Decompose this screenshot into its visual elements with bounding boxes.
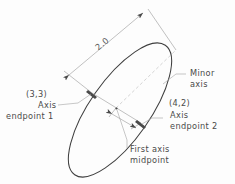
minor-axis-dashed-line	[116, 50, 176, 108]
midpoint-marker	[115, 107, 117, 109]
leader-minor-axis	[163, 74, 186, 84]
leader-endpoint-1	[58, 94, 91, 105]
dimension-value-group: 2.0	[93, 35, 111, 52]
dimension-2-0	[64, 9, 176, 93]
midpoint-to-endpoint2-dimension	[109, 108, 141, 129]
endpoint-1-coordinate-text: (3,3)	[26, 89, 47, 99]
endpoint-2-label-line-2: endpoint 2	[170, 121, 218, 131]
midpoint-label-line-1: First axis	[130, 144, 170, 154]
midpoint-label-line-2: midpoint	[130, 155, 170, 165]
minor-axis-label-line-2: axis	[190, 79, 208, 89]
endpoint-1-label-line-2: endpoint 1	[6, 111, 54, 121]
leader-endpoint-2	[142, 118, 163, 124]
label-first-axis-midpoint: First axis midpoint	[130, 144, 170, 165]
minor-axis-label-line-1: Minor	[190, 68, 215, 78]
dimension-value-text: 2.0	[93, 35, 111, 52]
endpoint-2-marker	[135, 120, 146, 129]
endpoint-2-coordinate-text: (4,2)	[169, 98, 190, 108]
endpoint-2-label-line-1: Axis	[170, 110, 188, 120]
label-minor-axis: Minor axis	[190, 68, 215, 89]
label-axis-endpoint-1: (3,3) Axis endpoint 1	[6, 89, 56, 121]
leader-first-axis-midpoint	[117, 110, 127, 148]
diagram-canvas: 2.0 (3,3) Axis endpoint 1 (4,2) Axis end…	[0, 0, 235, 184]
label-axis-endpoint-2: (4,2) Axis endpoint 2	[169, 98, 218, 131]
endpoint-1-label-line-1: Axis	[38, 100, 56, 110]
